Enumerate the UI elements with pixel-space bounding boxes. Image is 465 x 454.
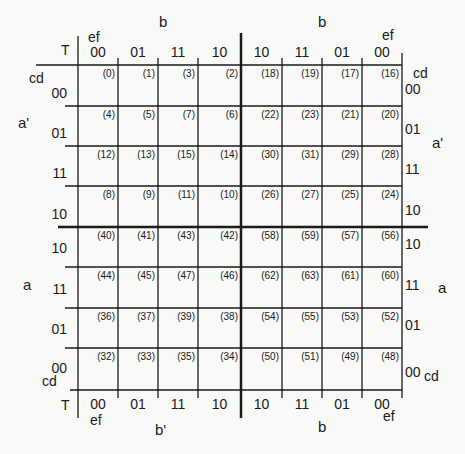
minterm-label: (17)	[341, 68, 359, 79]
minterm-label: (19)	[301, 68, 319, 79]
row-code-right: 01	[405, 121, 421, 137]
row-code-right: 11	[405, 277, 420, 293]
column-code-top: 01	[130, 44, 146, 60]
minterm-label: (18)	[261, 68, 279, 79]
group-label-bottom-left: b'	[155, 421, 166, 438]
minterm-label: (43)	[177, 230, 195, 241]
minterm-label: (50)	[261, 351, 279, 362]
row-var-label-top-right: cd	[413, 65, 428, 81]
minterm-label: (57)	[341, 230, 359, 241]
row-code-right: 01	[405, 317, 421, 333]
column-code-top: 10	[212, 44, 228, 60]
row-var-label-top-left: cd	[29, 70, 44, 86]
group-label-left-top: a'	[18, 114, 29, 131]
minterm-label: (61)	[341, 270, 359, 281]
minterm-label: (23)	[301, 109, 319, 120]
minterm-label: (49)	[341, 351, 359, 362]
group-label-top-left: b	[159, 13, 167, 30]
minterm-label: (14)	[220, 149, 238, 160]
minterm-label: (10)	[220, 189, 238, 200]
minterm-label: (46)	[220, 270, 238, 281]
minterm-label: (26)	[261, 189, 279, 200]
minterm-label: (34)	[220, 351, 238, 362]
column-code-bottom: 00	[374, 396, 390, 412]
column-code-top: 11	[295, 44, 310, 60]
minterm-label: (33)	[137, 351, 155, 362]
minterm-label: (9)	[143, 189, 155, 200]
row-code-left: 00	[51, 85, 67, 101]
minterm-label: (31)	[301, 149, 319, 160]
minterm-label: (59)	[301, 230, 319, 241]
column-code-bottom: 11	[295, 396, 310, 412]
minterm-label: (15)	[177, 149, 195, 160]
minterm-label: (29)	[341, 149, 359, 160]
minterm-label: (54)	[261, 311, 279, 322]
minterm-label: (1)	[143, 68, 155, 79]
column-code-top: 00	[90, 44, 106, 60]
column-code-bottom: 10	[212, 396, 228, 412]
minterm-label: (2)	[226, 68, 238, 79]
corner-label-bottom: T	[61, 397, 70, 413]
row-code-left: 11	[52, 281, 67, 297]
minterm-label: (60)	[381, 270, 399, 281]
minterm-label: (20)	[381, 109, 399, 120]
column-var-label-bottom: ef	[90, 412, 102, 428]
minterm-label: (62)	[261, 270, 279, 281]
column-code-bottom: 01	[130, 396, 146, 412]
minterm-label: (39)	[177, 311, 195, 322]
column-code-top: 00	[374, 44, 390, 60]
minterm-label: (12)	[97, 149, 115, 160]
row-code-left: 00	[51, 360, 67, 376]
group-label-right-bottom: a	[438, 279, 447, 296]
minterm-label: (0)	[103, 68, 115, 79]
column-code-top: 01	[334, 44, 350, 60]
group-label-bottom-right: b	[318, 418, 326, 435]
row-code-left: 10	[51, 240, 67, 256]
row-code-right: 00	[405, 81, 421, 97]
minterm-label: (32)	[97, 351, 115, 362]
minterm-label: (40)	[97, 230, 115, 241]
group-label-right-top: a'	[432, 134, 443, 151]
minterm-label: (25)	[341, 189, 359, 200]
row-code-left: 01	[51, 125, 67, 141]
minterm-label: (11)	[178, 189, 195, 200]
column-var-label-top: ef	[88, 29, 100, 45]
row-var-label-bottom-right: cd	[424, 368, 439, 384]
column-code-bottom: 01	[334, 396, 350, 412]
row-code-left: 01	[51, 321, 67, 337]
minterm-label: (42)	[220, 230, 238, 241]
column-code-bottom: 00	[90, 396, 106, 412]
minterm-label: (37)	[137, 311, 155, 322]
minterm-label: (55)	[301, 311, 319, 322]
minterm-label: (6)	[226, 109, 238, 120]
minterm-label: (36)	[97, 311, 115, 322]
column-var-label-top-right: ef	[382, 27, 394, 43]
minterm-label: (63)	[301, 270, 319, 281]
minterm-label: (47)	[177, 270, 195, 281]
row-code-left: 11	[52, 165, 67, 181]
row-code-right: 10	[405, 236, 421, 252]
row-code-right: 11	[405, 161, 420, 177]
minterm-label: (52)	[381, 311, 399, 322]
minterm-label: (48)	[381, 351, 399, 362]
minterm-label: (22)	[261, 109, 279, 120]
minterm-label: (44)	[97, 270, 115, 281]
group-label-left-bottom: a	[23, 276, 32, 293]
minterm-label: (30)	[261, 149, 279, 160]
row-code-right: 10	[405, 202, 421, 218]
minterm-label: (38)	[220, 311, 238, 322]
minterm-label: (21)	[341, 109, 359, 120]
column-code-bottom: 10	[254, 396, 270, 412]
minterm-label: (35)	[177, 351, 195, 362]
column-code-top: 11	[171, 44, 186, 60]
cell-labels: (0)(1)(3)(2)(18)(19)(17)(16)(4)(5)(7)(6)…	[97, 68, 399, 362]
minterm-label: (41)	[137, 230, 155, 241]
minterm-label: (8)	[103, 189, 115, 200]
minterm-label: (24)	[381, 189, 399, 200]
karnaugh-map: (0)(1)(3)(2)(18)(19)(17)(16)(4)(5)(7)(6)…	[0, 0, 465, 454]
minterm-label: (51)	[301, 351, 319, 362]
minterm-label: (53)	[341, 311, 359, 322]
minterm-label: (13)	[137, 149, 155, 160]
minterm-label: (27)	[301, 189, 319, 200]
minterm-label: (56)	[381, 230, 399, 241]
